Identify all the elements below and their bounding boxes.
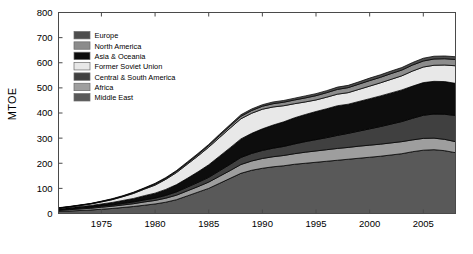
legend-swatch xyxy=(74,52,90,59)
legend-swatch xyxy=(74,73,90,80)
x-tick-label: 1985 xyxy=(198,218,219,229)
legend-label: Asia & Oceania xyxy=(95,52,147,61)
y-tick-label: 300 xyxy=(37,133,53,144)
y-tick-label: 0 xyxy=(47,208,52,219)
legend-swatch xyxy=(74,94,90,101)
legend-label: Africa xyxy=(95,83,115,92)
y-tick-label: 200 xyxy=(37,158,53,169)
x-tick-label: 1980 xyxy=(144,218,165,229)
legend-label: Middle East xyxy=(95,93,134,102)
y-tick-label: 500 xyxy=(37,82,53,93)
chart-legend: EuropeNorth AmericaAsia & OceaniaFormer … xyxy=(74,31,176,102)
legend-label: North America xyxy=(95,42,143,51)
stacked-area-chart: 0100200300400500600700800 19751980198519… xyxy=(0,0,473,254)
x-tick-label: 2000 xyxy=(359,218,380,229)
legend-label: Former Soviet Union xyxy=(95,62,163,71)
legend-label: Europe xyxy=(95,31,119,40)
y-tick-label: 600 xyxy=(37,57,53,68)
y-tick-label: 400 xyxy=(37,107,53,118)
x-tick-label: 2005 xyxy=(413,218,434,229)
x-tick-label: 1975 xyxy=(91,218,112,229)
x-tick-label: 1995 xyxy=(305,218,326,229)
legend-swatch xyxy=(74,42,90,49)
y-tick-label: 800 xyxy=(37,7,53,18)
legend-label: Central & South America xyxy=(95,73,177,82)
y-tick-label: 100 xyxy=(37,183,53,194)
chart-figure: MTOE 0100200300400500600700800 197519801… xyxy=(0,0,473,254)
legend-swatch xyxy=(74,63,90,70)
x-tick-label: 1990 xyxy=(252,218,273,229)
legend-swatch xyxy=(74,32,90,39)
y-tick-label: 700 xyxy=(37,32,53,43)
legend-swatch xyxy=(74,83,90,90)
